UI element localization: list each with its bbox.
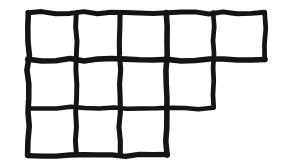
- grid-figure-canvas: [0, 0, 284, 165]
- horizontal-lines-group: [28, 12, 265, 157]
- grid-line-row1-row2-divider: [28, 58, 265, 61]
- vertical-lines-group: [27, 13, 266, 156]
- grid-line-col-line-1-left-edge: [27, 13, 30, 155]
- grid-line-col-line-5: [213, 13, 214, 108]
- grid-figure-svg: [0, 0, 284, 165]
- grid-line-col-line-6-right-edge: [264, 13, 265, 60]
- grid-line-top-edge: [28, 12, 265, 14]
- grid-line-col-line-3: [119, 13, 121, 155]
- grid-line-bottom-edge: [28, 154, 168, 156]
- grid-line-col-line-2: [75, 13, 77, 154]
- grid-line-col-line-4: [166, 13, 167, 155]
